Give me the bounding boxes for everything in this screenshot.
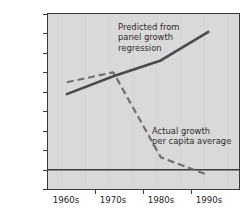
x-tick-mark [143,190,144,194]
annotation-actual-label: Actual growth per capita average [152,126,231,147]
growth-chart: 4.0% 3.5% 3.0% 2.5% 2.0% 1.5% 1.0% 0.5% … [0,0,250,216]
x-tick-mark [95,190,96,194]
annotation-predicted-label: Predicted from panel growth regression [118,22,179,53]
x-tick-label-1990s: 1990s [186,195,232,205]
x-tick-label-1970s: 1970s [90,195,136,205]
x-tick-mark [191,190,192,194]
series-actual-growth [67,72,209,175]
x-tick-label-1960s: 1960s [43,195,89,205]
x-tick-label-1980s: 1980s [138,195,184,205]
